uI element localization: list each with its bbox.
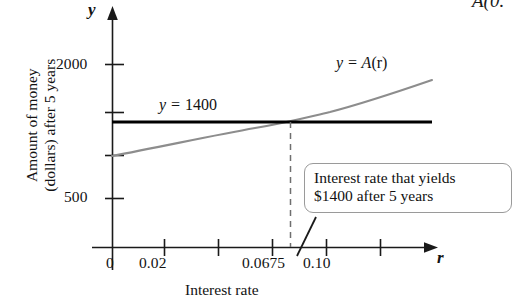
y-tick-label-500: 500 [64,189,88,205]
x-axis-variable-label: r [437,249,444,267]
x-axis-caption: Interest rate [185,282,259,298]
curve-label-argument: (r) [371,54,387,71]
y-tick-label-2000: 2000 [56,56,87,72]
curve-label-y-equals-a-of-r: y = A(r) [336,55,387,72]
interest-rate-graph-figure: y r 2000 500 0 0.02 0.0675 0.10 y = A(r)… [0,0,532,307]
y-axis-caption-line-1: Amount of money [23,68,40,182]
curve-y-equals-a-of-r [112,80,432,156]
y-axis-caption-line-2: (dollars) after 5 years [41,59,58,192]
curve-label-lhs: y = A [336,54,371,71]
line-label-y-equals-1400: y = 1400 [159,97,217,114]
cropped-formula-fragment: A(0. [472,0,504,11]
callout-box: Interest rate that yields $1400 after 5 … [304,163,512,213]
line-label-value: 1400 [185,96,217,113]
y-axis-arrowhead [107,6,118,20]
callout-line-2: $1400 after 5 years [314,187,502,205]
line-label-lhs: y = [159,96,185,113]
x-tick-label-010: 0.10 [303,255,331,271]
x-axis-arrowhead [424,242,438,253]
y-axis-variable-label: y [88,1,96,19]
x-tick-label-0: 0 [106,255,114,271]
callout-line-1: Interest rate that yields [314,169,502,187]
y-axis-caption: Amount of money(dollars) after 5 years [23,17,60,233]
x-tick-label-00675: 0.0675 [242,255,285,271]
callout-leader-line [297,217,316,256]
y-tick-marks [105,65,124,199]
x-tick-label-002: 0.02 [139,255,167,271]
